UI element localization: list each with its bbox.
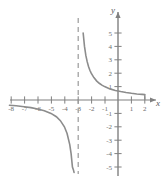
x-tick-label: 2: [143, 105, 147, 113]
y-tick-label: 2: [109, 70, 113, 78]
x-tick-label: -5: [48, 105, 54, 113]
y-tick-label: -5: [106, 164, 112, 172]
y-axis-label: y: [110, 5, 115, 15]
rational-function-graph: x y -8 -7 -6 -5 -4 -3 -2 -1 1 2: [0, 0, 168, 180]
graph-canvas: x y -8 -7 -6 -5 -4 -3 -2 -1 1 2: [0, 0, 168, 180]
y-tick-label: -1: [106, 110, 112, 118]
curve-branch-right: [83, 33, 145, 95]
y-axis-arrow: [115, 12, 120, 18]
y-tick-label: 3: [109, 56, 113, 64]
y-tick-label: -2: [106, 123, 112, 131]
x-tick-label: 1: [130, 105, 134, 113]
x-tick-label: -4: [62, 105, 68, 113]
curve-branch-left: [9, 105, 74, 172]
x-axis-label: x: [155, 98, 160, 108]
y-tick-label: 5: [109, 30, 113, 38]
y-tick-label: -3: [106, 137, 112, 145]
y-tick-label: -4: [106, 150, 112, 158]
y-tick-label: 4: [109, 43, 113, 51]
x-tick-label: -2: [89, 105, 95, 113]
